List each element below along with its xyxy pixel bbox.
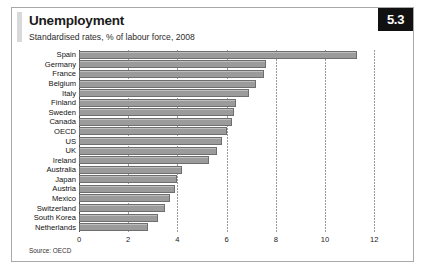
category-label: South Korea [34, 214, 76, 222]
category-label: France [52, 70, 76, 78]
bar [79, 194, 170, 202]
bar [79, 175, 177, 183]
bar [79, 147, 217, 155]
bar [79, 118, 232, 126]
category-label: Japan [55, 176, 76, 184]
category-axis: SpainGermanyFranceBelgiumItalyFinlandSwe… [12, 50, 79, 232]
x-tick-label: 6 [224, 235, 228, 244]
category-label: Germany [45, 61, 76, 69]
page-number-badge: 5.3 [378, 8, 413, 31]
category-label: Finland [51, 99, 76, 107]
page-title: Unemployment [29, 13, 124, 28]
category-label: Canada [49, 118, 76, 126]
bar [79, 137, 222, 145]
bar [79, 214, 158, 222]
gridline [325, 50, 326, 232]
plot-area: SpainGermanyFranceBelgiumItalyFinlandSwe… [12, 50, 415, 263]
chart-header: Unemployment Standardised rates, % of la… [12, 8, 413, 50]
category-label: Australia [46, 166, 76, 174]
chart-figure: Unemployment Standardised rates, % of la… [11, 7, 414, 262]
bar [79, 70, 264, 78]
bar [79, 89, 249, 97]
x-tick-label: 4 [175, 235, 179, 244]
bar [79, 99, 236, 107]
title-accent-bar [17, 12, 22, 42]
category-label: UK [65, 147, 76, 155]
bar [79, 156, 209, 164]
category-label: Mexico [52, 195, 76, 203]
category-label: Netherlands [35, 224, 76, 232]
category-label: Sweden [49, 109, 76, 117]
bar [79, 60, 266, 68]
gridline [276, 50, 277, 232]
bar [79, 80, 256, 88]
category-label: Switzerland [37, 205, 76, 213]
x-tick-label: 12 [370, 235, 378, 244]
category-label: Ireland [53, 157, 76, 165]
bar [79, 108, 234, 116]
x-tick-label: 8 [274, 235, 278, 244]
category-label: Belgium [49, 80, 76, 88]
bar [79, 185, 175, 193]
bar [79, 204, 165, 212]
x-tick-label: 2 [126, 235, 130, 244]
bars-container: 024681012 [79, 50, 389, 232]
gridline [374, 50, 375, 232]
bar [79, 51, 357, 59]
category-label: Austria [52, 185, 76, 193]
x-tick-label: 10 [321, 235, 329, 244]
bar [79, 166, 182, 174]
bar [79, 127, 227, 135]
category-label: US [65, 138, 76, 146]
chart-subtitle: Standardised rates, % of labour force, 2… [29, 32, 195, 42]
bar [79, 223, 148, 231]
x-tick-label: 0 [77, 235, 81, 244]
category-label: Italy [62, 90, 76, 98]
source-note: Source: OECD [29, 247, 71, 254]
category-label: OECD [54, 128, 76, 136]
category-label: Spain [57, 51, 76, 59]
